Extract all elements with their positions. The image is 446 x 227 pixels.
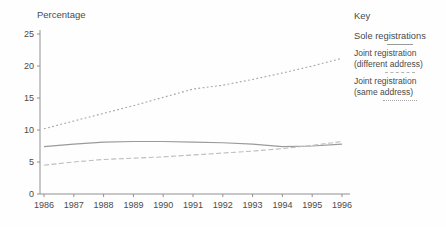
key-entry-label: (different address) [354,59,446,70]
y-tick-label: 25 [24,29,34,39]
key-entry-label: Joint registration [354,76,446,87]
line-joint-registration-same-address [44,58,342,128]
chart-figure: Percentage 05101520251986198719881989199… [0,0,446,227]
key-entry-sole-registrations: Sole registrations [354,30,446,45]
y-tick-label: 20 [24,61,34,71]
x-tick-label: 1994 [272,200,292,210]
y-tick-label: 10 [24,125,34,135]
x-tick-label: 1988 [94,200,114,210]
x-tick-label: 1992 [213,200,233,210]
x-tick-label: 1986 [34,200,54,210]
dotted-line-sample-icon [383,100,417,101]
x-tick-label: 1996 [332,200,352,210]
key-entry-label: Joint registration [354,48,446,59]
key-entry-label: (same address) [354,87,446,98]
line-joint-registration-different-address [44,142,342,166]
key-entry-label: Sole registrations [354,30,446,42]
x-tick-label: 1991 [183,200,203,210]
dashed-line-sample-icon [385,72,415,73]
y-tick-label: 5 [29,157,34,167]
x-tick-label: 1987 [64,200,84,210]
chart-key: Key Sole registrations Joint registratio… [354,10,446,104]
x-tick-label: 1990 [153,200,173,210]
line-sole-registrations [44,142,342,147]
x-tick-label: 1989 [123,200,143,210]
x-tick-label: 1995 [302,200,322,210]
x-tick-label: 1993 [243,200,263,210]
y-tick-label: 0 [29,189,34,199]
key-title: Key [354,10,446,21]
key-entry-joint-different-address: Joint registration (different address) [354,48,446,73]
y-tick-label: 15 [24,93,34,103]
solid-line-sample-icon [387,44,413,45]
key-entry-joint-same-address: Joint registration (same address) [354,76,446,101]
